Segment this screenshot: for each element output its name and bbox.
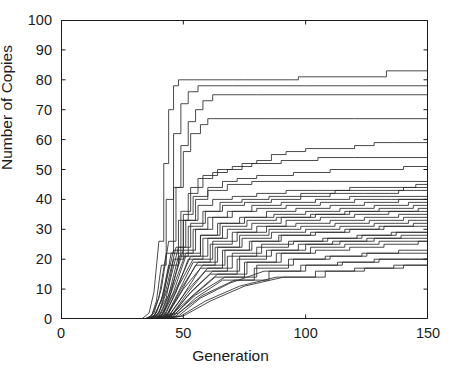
chart-figure: 0102030405060708090100 050100150 Number …: [0, 0, 461, 368]
curve-run-07: [61, 167, 428, 319]
y-axis-title: Number of Copies: [0, 45, 16, 170]
curve-run-03: [61, 95, 428, 319]
plot-svg: [61, 20, 428, 319]
plot-area: [61, 20, 428, 319]
curve-run-11: [61, 190, 428, 319]
curve-run-15: [61, 202, 428, 319]
curve-run-30: [61, 247, 428, 319]
curve-run-01: [61, 71, 428, 319]
curve-run-05: [61, 143, 428, 319]
curve-run-13: [61, 196, 428, 319]
x-axis-title: Generation: [0, 347, 461, 365]
data-curves: [61, 71, 428, 319]
